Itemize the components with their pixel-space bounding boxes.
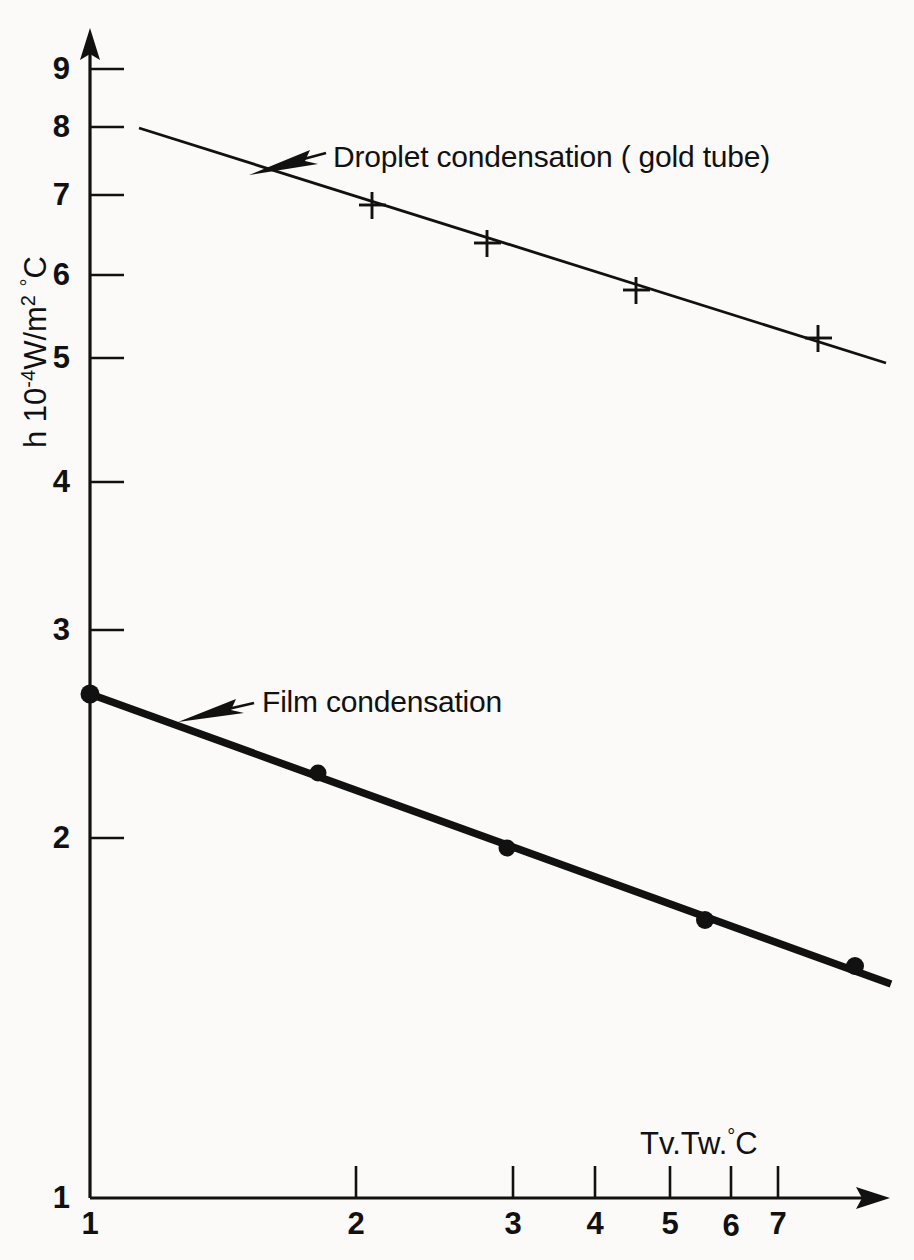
- film-marker-1: [81, 685, 100, 704]
- x-axis-title-main: Tv.Tw.: [640, 1126, 727, 1161]
- film-condensation-label: Film condensation: [262, 685, 502, 719]
- y-tick-label-2: 2: [30, 822, 70, 853]
- y-tick-label-1: 1: [30, 1182, 70, 1213]
- film-marker-3: [499, 840, 516, 857]
- film-marker-5: [846, 957, 864, 975]
- y-axis-title-units-b: 2: [17, 295, 39, 306]
- chart-figure: 9 8 7 6 5 4 3 2 1 1 2 3 4 5 6 7 Droplet …: [0, 0, 914, 1260]
- y-axis-title-units-a: W/m: [18, 306, 53, 370]
- y-tick-label-4: 4: [30, 466, 70, 497]
- x-tick-label-4: 4: [575, 1208, 615, 1239]
- film-trend-line: [90, 694, 891, 984]
- y-tick-label-7: 7: [30, 179, 70, 210]
- film-callout-arrow: [178, 699, 254, 722]
- droplet-condensation-label: Droplet condensation ( gold tube): [333, 140, 770, 174]
- y-axis-title-units-c: C: [18, 256, 53, 278]
- y-tick-marks: [90, 69, 124, 838]
- y-axis-title-degree-icon: °: [17, 278, 39, 286]
- y-axis-title-prefix: 10: [18, 388, 53, 422]
- y-tick-label-9: 9: [30, 53, 70, 84]
- y-tick-label-3: 3: [30, 614, 70, 645]
- x-tick-label-1: 1: [70, 1208, 110, 1239]
- x-tick-label-3: 3: [493, 1208, 533, 1239]
- y-axis-title: h 10-4W/m2 °C: [18, 256, 54, 448]
- x-tick-label-2: 2: [336, 1208, 376, 1239]
- film-marker-4: [696, 911, 714, 929]
- droplet-marker-4: [805, 325, 832, 352]
- y-axis: [80, 28, 100, 1198]
- x-tick-marks: [356, 1166, 778, 1198]
- chart-canvas: [0, 0, 914, 1260]
- x-axis-title: Tv.Tw.°C: [640, 1126, 758, 1162]
- x-tick-label-7: 7: [758, 1208, 798, 1239]
- series-film-condensation: [81, 685, 892, 985]
- y-axis-title-exponent: -4: [17, 370, 39, 388]
- x-tick-label-5: 5: [650, 1208, 690, 1239]
- y-tick-label-8: 8: [30, 111, 70, 142]
- y-axis-title-symbol: h: [18, 431, 53, 448]
- film-marker-2: [310, 765, 327, 782]
- droplet-marker-1: [359, 192, 386, 219]
- x-axis-title-unit: C: [735, 1126, 757, 1161]
- x-tick-label-6: 6: [711, 1210, 751, 1241]
- droplet-callout-arrow: [249, 150, 326, 175]
